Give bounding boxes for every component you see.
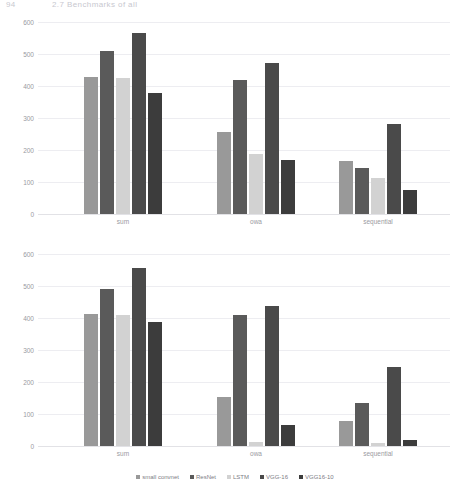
- bar-vgg16-10-owa-bottom: [281, 425, 295, 446]
- y-tick-label-600-bottom: 600: [4, 251, 34, 258]
- plot-area-top: sumowasequential: [38, 22, 450, 214]
- y-tick-label-600-top: 600: [4, 19, 34, 26]
- legend-swatch-icon: [227, 475, 231, 479]
- page-number: 94: [6, 0, 16, 9]
- bar-vgg16-10-sum-top: [148, 93, 162, 214]
- x-tick-label-owa-bottom: owa: [196, 450, 316, 457]
- legend-item-vgg16-10: VGG16-10: [299, 474, 334, 480]
- bar-vgg-16-sequential-top: [387, 124, 401, 214]
- x-tick-label-owa-top: owa: [196, 218, 316, 225]
- bar-small-convnet-owa-top: [217, 132, 231, 214]
- y-tick-label-300-top: 300: [4, 115, 34, 122]
- legend-swatch-icon: [299, 475, 303, 479]
- bar-lstm-sequential-bottom: [371, 443, 385, 446]
- bar-small-convnet-sequential-top: [339, 161, 353, 214]
- y-axis-top: 6005004003002001000: [0, 22, 34, 214]
- y-tick-label-0-bottom: 0: [4, 443, 34, 450]
- legend-item-vgg-16: VGG-16: [260, 474, 288, 480]
- legend-item-resnet: ResNet: [190, 474, 216, 480]
- bar-vgg-16-sum-top: [132, 33, 146, 214]
- bar-small-convnet-sum-top: [84, 77, 98, 214]
- y-tick-label-100-top: 100: [4, 179, 34, 186]
- bar-small-convnet-sum-bottom: [84, 314, 98, 446]
- bar-vgg-16-sum-bottom: [132, 268, 146, 446]
- x-tick-label-sum-top: sum: [63, 218, 183, 225]
- bar-small-convnet-sequential-bottom: [339, 421, 353, 446]
- gridline-0: [38, 446, 450, 447]
- x-tick-label-sum-bottom: sum: [63, 450, 183, 457]
- bar-group-owa-top: [217, 22, 295, 214]
- bar-resnet-sum-top: [100, 51, 114, 214]
- legend-swatch-icon: [260, 475, 264, 479]
- chart-page: 94 2.7 Benchmarks of all 600500400300200…: [0, 0, 470, 496]
- y-tick-label-200-top: 200: [4, 147, 34, 154]
- bar-lstm-sum-top: [116, 78, 130, 214]
- bar-group-sum-bottom: [84, 254, 162, 446]
- y-axis-bottom: 6005004003002001000: [0, 254, 34, 446]
- y-tick-label-400-bottom: 400: [4, 315, 34, 322]
- bar-resnet-sequential-bottom: [355, 403, 369, 446]
- bar-lstm-owa-top: [249, 154, 263, 214]
- bar-resnet-sum-bottom: [100, 289, 114, 446]
- running-title: 2.7 Benchmarks of all: [52, 0, 137, 9]
- bar-group-owa-bottom: [217, 254, 295, 446]
- chart-panel-bottom: 6005004003002001000 sumowasequential: [0, 246, 470, 474]
- legend-swatch-icon: [190, 475, 194, 479]
- legend-label: LSTM: [233, 474, 249, 480]
- legend-label: ResNet: [196, 474, 216, 480]
- legend-label: VGG-16: [266, 474, 288, 480]
- bar-group-sum-top: [84, 22, 162, 214]
- bar-vgg-16-owa-bottom: [265, 306, 279, 446]
- legend-label: small convnet: [142, 474, 179, 480]
- y-tick-label-0-top: 0: [4, 211, 34, 218]
- y-tick-label-200-bottom: 200: [4, 379, 34, 386]
- legend-swatch-icon: [136, 475, 140, 479]
- bar-resnet-owa-bottom: [233, 315, 247, 446]
- y-tick-label-400-top: 400: [4, 83, 34, 90]
- bar-lstm-sequential-top: [371, 178, 385, 214]
- chart-legend: small convnetResNetLSTMVGG-16VGG16-10: [0, 474, 470, 480]
- bar-resnet-owa-top: [233, 80, 247, 214]
- bar-vgg-16-sequential-bottom: [387, 367, 401, 446]
- y-tick-label-500-top: 500: [4, 51, 34, 58]
- gridline-0: [38, 214, 450, 215]
- x-tick-label-sequential-top: sequential: [318, 218, 438, 225]
- bar-vgg16-10-sequential-bottom: [403, 440, 417, 446]
- bar-group-sequential-bottom: [339, 254, 417, 446]
- legend-label: VGG16-10: [305, 474, 334, 480]
- bar-lstm-sum-bottom: [116, 315, 130, 446]
- y-tick-label-300-bottom: 300: [4, 347, 34, 354]
- chart-panel-top: 6005004003002001000 sumowasequential: [0, 14, 470, 242]
- page-running-header: 94 2.7 Benchmarks of all: [0, 0, 470, 12]
- x-tick-label-sequential-bottom: sequential: [318, 450, 438, 457]
- legend-item-small-convnet: small convnet: [136, 474, 179, 480]
- legend-item-lstm: LSTM: [227, 474, 249, 480]
- bar-lstm-owa-bottom: [249, 442, 263, 446]
- bar-group-sequential-top: [339, 22, 417, 214]
- y-tick-label-100-bottom: 100: [4, 411, 34, 418]
- bar-vgg-16-owa-top: [265, 63, 279, 214]
- plot-area-bottom: sumowasequential: [38, 254, 450, 446]
- bar-vgg16-10-owa-top: [281, 160, 295, 214]
- bar-vgg16-10-sum-bottom: [148, 322, 162, 446]
- bar-vgg16-10-sequential-top: [403, 190, 417, 214]
- bar-resnet-sequential-top: [355, 168, 369, 214]
- y-tick-label-500-bottom: 500: [4, 283, 34, 290]
- bar-small-convnet-owa-bottom: [217, 397, 231, 446]
